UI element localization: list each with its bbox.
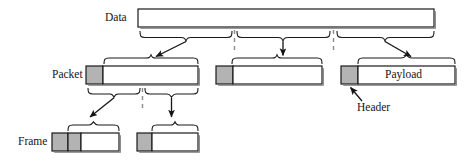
frame-2-top-brace	[152, 122, 198, 131]
payload-label: Payload	[385, 69, 422, 81]
data-split-brace-3	[337, 31, 434, 41]
arrow-data-to-packet-3	[385, 42, 411, 57]
diagram-canvas	[0, 0, 466, 162]
data-split-brace-2	[237, 31, 330, 41]
packet-box-3-header	[341, 66, 358, 84]
header-callout-arrow	[351, 88, 363, 102]
frame-box-1	[52, 133, 120, 152]
packet-3-top-brace	[358, 55, 455, 64]
data-row-label: Data	[105, 12, 127, 24]
frame-box-2	[137, 133, 199, 152]
frame-1-top-brace	[68, 122, 119, 131]
encapsulation-diagram: Data Packet Frame Payload Header	[0, 0, 466, 162]
packet-2-top-brace	[232, 55, 322, 64]
packet-box-1	[86, 66, 199, 85]
arrow-packet-to-frame-1	[90, 98, 114, 117]
packet-split-brace-1	[88, 88, 140, 97]
arrow-data-to-packet-1	[156, 42, 186, 57]
packet-split-brace-2	[145, 88, 198, 97]
header-label: Header	[357, 102, 390, 114]
packet-1-top-brace	[104, 55, 198, 64]
packet-box-2	[216, 66, 323, 85]
frame-row-label: Frame	[18, 136, 47, 148]
data-box	[138, 9, 435, 28]
data-split-brace-1	[140, 31, 232, 41]
packet-row-label: Packet	[52, 69, 83, 81]
